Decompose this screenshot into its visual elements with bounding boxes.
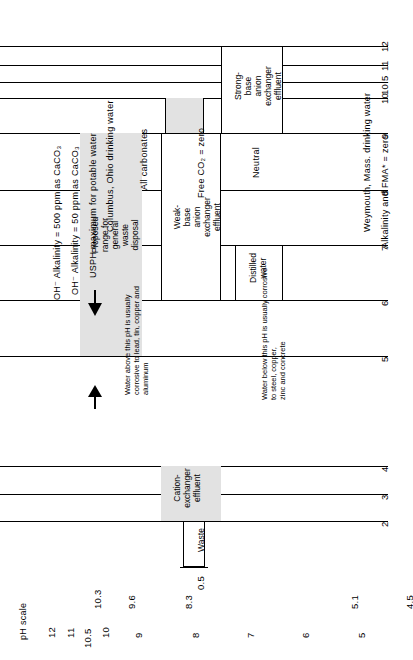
callout-below-arrow-icon	[86, 290, 104, 316]
axis-value-7: 7	[245, 632, 256, 638]
axis-value-8-3: 8.3	[183, 595, 194, 609]
scale-label-12: 12	[379, 41, 390, 52]
callout-below-line-1: Water below this pH is usually corrosive	[260, 280, 269, 400]
callout-above-line-1: Water above this pH is usually	[123, 285, 132, 395]
callout-above-arrow-icon	[86, 385, 104, 409]
axis-value-10: 10	[100, 627, 111, 638]
scale-label-10: 10	[379, 93, 390, 104]
callout-above-ph-text: Water above this pH is usually corrosive…	[123, 285, 150, 395]
axis-value-9-6: 9.6	[126, 595, 137, 609]
proposed-line-4: waste	[120, 170, 130, 300]
strong-base-line-4: exchanger	[263, 44, 273, 128]
scale-label-11: 11	[379, 61, 390, 71]
figure-canvas: 12 11 10.5 10 9 8 7 6 5 4 3 2 13.5 Anion…	[0, 0, 413, 660]
annotation-ph-4-5: Alkalinity and FMA* = zero	[380, 134, 390, 248]
annotation-ph-5-1: Weymouth, Mass. drinking water	[362, 93, 372, 232]
axis-value-9: 9	[133, 632, 144, 638]
annotation-ph-7: Neutral	[251, 147, 261, 178]
axis-value-8: 8	[190, 632, 201, 638]
scale-label-6: 6	[379, 300, 390, 306]
gridline-ph-12	[0, 46, 388, 47]
axis-title-ph-scale: pH scale	[18, 603, 28, 640]
strong-base-line-1: Strong-	[233, 44, 243, 128]
callout-below-ph-block: Water below this pH is usually corrosive…	[260, 280, 287, 400]
axis-value-10-5: 10.5	[82, 628, 93, 648]
scale-label-4: 4	[379, 466, 390, 472]
axis-value-4-5: 4.5	[404, 595, 413, 609]
scale-label-2: 2	[379, 521, 390, 527]
cation-line-3: effluent	[192, 460, 202, 516]
callout-above-line-2: corrosive to lead, tin, copper and	[132, 285, 141, 395]
gridline-ph-11	[0, 65, 388, 66]
cation-line-2: exchanger	[182, 460, 192, 516]
annotation-ph-10-3: Columbus, Ohio drinking water	[105, 100, 115, 232]
box-label-waste: Waste	[196, 518, 206, 562]
box-label-strong-base: Strong- base anion exchanger effluent	[233, 44, 283, 128]
strong-base-line-3: anion	[253, 44, 263, 128]
annotation-ph-8-3: Free CO₂ = zero	[196, 128, 206, 198]
callout-below-line-2: to steel, copper,	[269, 280, 278, 400]
scale-label-0-5: 0.5	[195, 576, 206, 590]
gridline-ph-10-5	[0, 82, 388, 83]
annotation-ph-10-5: USPH maximum for potable water	[88, 133, 98, 278]
annotation-ph-12: OH⁻ Alkalinity = 500 ppm as CaCO₃	[52, 146, 62, 300]
annotation-ph-11: OH⁻ Alkalinity = 50 ppm as CaCO₃	[70, 146, 80, 295]
gridline-ph-5	[0, 356, 388, 357]
distilled-line-1: Distilled	[248, 240, 258, 296]
strong-base-line-5: effluent	[273, 44, 283, 128]
axis-value-10-3: 10.3	[92, 589, 103, 609]
scale-label-5: 5	[379, 356, 390, 362]
band-label-cation-exchanger-effluent: Cation- exchanger effluent	[172, 460, 202, 516]
axis-value-5: 5	[356, 632, 367, 638]
callout-above-line-3: aluminum	[141, 285, 150, 395]
weak-base-line-1: Weak-	[172, 162, 182, 272]
axis-value-12: 12	[46, 627, 57, 638]
callout-below-line-3: zinc and concrete	[278, 280, 287, 400]
scale-label-3: 3	[379, 494, 390, 500]
weak-base-line-2: base	[182, 162, 192, 272]
cation-line-1: Cation-	[172, 460, 182, 516]
gridline-ph-0-5	[180, 567, 208, 568]
strong-base-line-2: base	[243, 44, 253, 128]
axis-value-11: 11	[65, 628, 76, 638]
axis-value-6: 6	[300, 632, 311, 638]
axis-value-5-1: 5.1	[349, 595, 360, 609]
annotation-ph-9-6: All carbonates	[139, 129, 149, 190]
weak-base-line-5: effluent	[212, 162, 222, 272]
